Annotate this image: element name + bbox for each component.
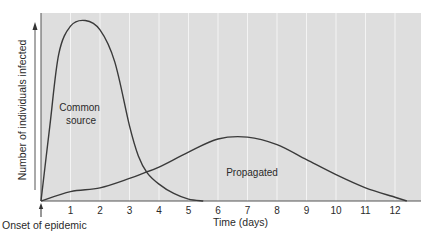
x-tick-label: 3 bbox=[127, 205, 133, 216]
x-axis-label: Time (days) bbox=[213, 216, 268, 228]
x-tick-label: 2 bbox=[97, 205, 103, 216]
x-tick-label: 5 bbox=[186, 205, 192, 216]
onset-annotation: Onset of epidemic bbox=[2, 219, 87, 231]
onset-arrow-icon bbox=[39, 203, 43, 217]
x-tick-label: 9 bbox=[304, 205, 310, 216]
y-axis-arrow-icon bbox=[33, 22, 38, 190]
x-tick-label: 1 bbox=[68, 205, 74, 216]
x-tick-label: 4 bbox=[156, 205, 162, 216]
x-tick-label: 7 bbox=[245, 205, 251, 216]
epidemic-curve-chart: 123456789101112 Number of individuals in… bbox=[0, 0, 429, 242]
x-tick-label: 10 bbox=[330, 205, 342, 216]
y-axis-label: Number of individuals infected bbox=[16, 40, 28, 181]
x-tick-label: 8 bbox=[274, 205, 280, 216]
x-tick-label: 11 bbox=[360, 205, 371, 216]
series-label-propagated: Propagated bbox=[226, 167, 278, 178]
x-tick-label: 12 bbox=[389, 205, 401, 216]
x-tick-labels: 123456789101112 bbox=[68, 205, 401, 216]
x-tick-label: 6 bbox=[215, 205, 221, 216]
